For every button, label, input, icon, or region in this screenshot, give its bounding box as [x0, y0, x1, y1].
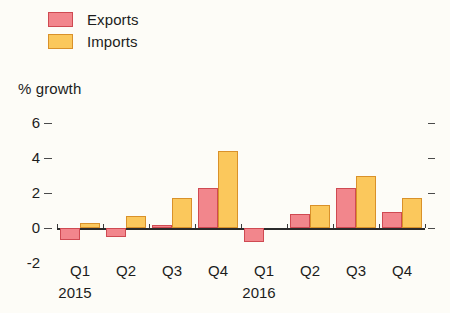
x-axis-label-quarter: Q1	[57, 262, 103, 279]
bar-exports-3	[198, 188, 218, 228]
y-axis-tick-mark	[44, 123, 52, 124]
bar-imports-5	[310, 205, 330, 228]
x-axis-label-quarter: Q2	[287, 262, 333, 279]
bar-exports-7	[382, 212, 402, 228]
bar-imports-2	[172, 198, 192, 228]
x-axis-label-quarter: Q1	[241, 262, 287, 279]
bar-imports-7	[402, 198, 422, 228]
x-axis-tick-mark	[333, 224, 334, 228]
x-axis-label-quarter: Q4	[195, 262, 241, 279]
bar-exports-2	[152, 225, 172, 228]
y-axis-tick-mark-right	[428, 158, 435, 159]
x-axis-tick-mark	[287, 224, 288, 228]
y-axis-tick-label: 6	[14, 114, 40, 131]
y-axis-tick-mark-right	[428, 193, 435, 194]
x-axis-tick-mark	[195, 224, 196, 228]
growth-bar-chart: Exports Imports % growth -20246Q1Q2Q3Q4Q…	[0, 0, 450, 313]
bar-exports-5	[290, 214, 310, 228]
x-axis-label-year: 2015	[52, 284, 98, 301]
y-axis-tick-label: 4	[14, 149, 40, 166]
x-axis-label-quarter: Q2	[103, 262, 149, 279]
y-axis-tick-mark-right	[428, 228, 435, 229]
x-axis-label-year: 2016	[236, 284, 282, 301]
x-axis-tick-mark	[241, 224, 242, 228]
bar-imports-1	[126, 216, 146, 228]
y-axis-tick-mark	[44, 158, 52, 159]
bar-imports-3	[218, 151, 238, 228]
x-axis-tick-mark	[379, 224, 380, 228]
y-axis-tick-label: -2	[14, 254, 40, 271]
y-axis-tick-mark	[44, 228, 52, 229]
x-axis-tick-mark	[149, 224, 150, 228]
bar-imports-6	[356, 176, 376, 229]
bar-exports-0	[60, 228, 80, 240]
y-axis-tick-mark	[44, 193, 52, 194]
bar-exports-6	[336, 188, 356, 228]
y-axis-tick-label: 0	[14, 219, 40, 236]
x-axis-tick-mark	[57, 224, 58, 228]
x-axis-tick-mark	[425, 224, 426, 228]
bar-imports-0	[80, 223, 100, 228]
plot-area: -20246Q1Q2Q3Q4Q1Q2Q3Q420152016	[0, 0, 450, 313]
x-axis-tick-mark	[103, 224, 104, 228]
x-axis-label-quarter: Q3	[333, 262, 379, 279]
y-axis-tick-mark-right	[428, 123, 435, 124]
bar-exports-4	[244, 228, 264, 242]
x-axis-label-quarter: Q4	[379, 262, 425, 279]
bar-exports-1	[106, 228, 126, 237]
x-axis-label-quarter: Q3	[149, 262, 195, 279]
y-axis-tick-label: 2	[14, 184, 40, 201]
